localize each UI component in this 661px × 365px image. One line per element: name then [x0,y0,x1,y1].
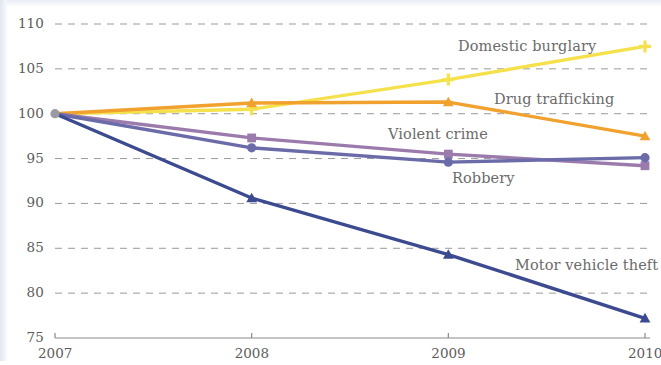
y-tick-label: 105 [0,60,44,76]
series-markers [50,40,651,322]
y-tick-label: 75 [0,329,44,345]
data-point-marker [444,158,453,167]
x-tick-label: 2009 [431,345,465,361]
y-tick-label: 110 [0,15,44,31]
data-point-marker [641,161,650,170]
x-tick-label: 2007 [38,345,72,361]
x-tick-label: 2008 [235,345,269,361]
chart-figure: 1101051009590858075 2007200820092010 Dom… [0,0,661,365]
series-label: Robbery [452,170,515,186]
y-tick-label: 100 [0,105,44,121]
y-tick-label: 80 [0,284,44,300]
data-point-marker [639,40,651,52]
y-tick-label: 95 [0,150,44,166]
data-point-marker [247,134,256,143]
data-point-marker [50,109,59,118]
y-tick-label: 85 [0,239,44,255]
data-point-marker [444,150,453,159]
data-point-marker [640,153,649,162]
line-chart-plot [0,0,661,365]
y-tick-label: 90 [0,194,44,210]
series-label: Violent crime [388,126,488,142]
data-point-marker [442,74,454,86]
series-label: Drug trafficking [494,91,614,107]
series-lines [55,46,645,318]
series-label: Domestic burglary [458,38,596,54]
x-axis [55,333,650,338]
x-tick-label: 2010 [628,345,661,361]
series-line [55,102,645,136]
data-point-marker [247,143,256,152]
series-label: Motor vehicle theft [515,257,658,273]
